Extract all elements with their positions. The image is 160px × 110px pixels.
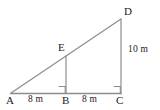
geometry-figure: A B C D E 8 m 8 m 10 m bbox=[0, 0, 160, 110]
figure-canvas bbox=[0, 0, 160, 110]
measure-label-bc: 8 m bbox=[82, 95, 97, 105]
measure-label-dc: 10 m bbox=[128, 45, 148, 55]
vertex-label-c: C bbox=[116, 95, 124, 106]
vertex-label-a: A bbox=[6, 95, 14, 106]
vertex-label-b: B bbox=[62, 95, 70, 106]
right-angle-marker-c-icon bbox=[114, 87, 121, 94]
vertex-label-d: D bbox=[124, 6, 132, 17]
measure-label-ab: 8 m bbox=[28, 95, 43, 105]
right-angle-marker-b-icon bbox=[59, 87, 66, 94]
vertex-label-e: E bbox=[58, 42, 65, 53]
